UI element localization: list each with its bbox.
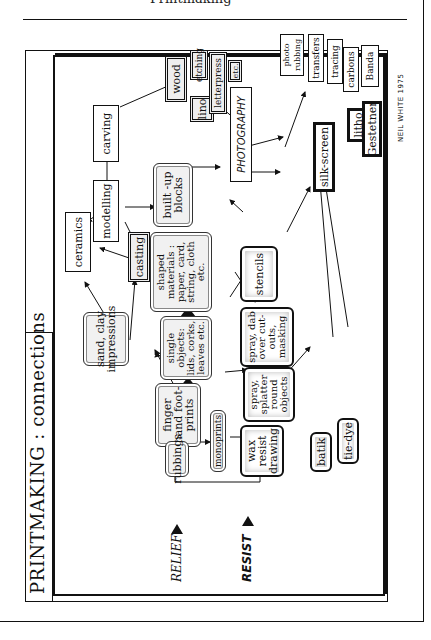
node-tie-dye: tie-dye bbox=[337, 418, 359, 464]
node-shaped-materials: shaped materials : paper, card, string, … bbox=[150, 232, 212, 312]
node-photo-rubbing: photo rubbing bbox=[280, 34, 304, 76]
node-wood: wood bbox=[165, 56, 187, 102]
resist-arrow-icon bbox=[242, 516, 254, 526]
node-monoprints: monoprints bbox=[210, 410, 226, 472]
header-rule bbox=[23, 19, 407, 20]
node-stencils: stencils bbox=[240, 246, 278, 302]
section-label-relief: RELIEF bbox=[170, 534, 184, 582]
node-banda: Banda bbox=[361, 45, 379, 87]
section-label-resist: RESIST bbox=[240, 535, 254, 582]
node-tracing: tracing bbox=[327, 39, 343, 84]
node-gestetner: Gestetner bbox=[362, 101, 382, 157]
node-carbons: carbons bbox=[343, 47, 359, 92]
node-wax-resist: wax resist drawing bbox=[240, 425, 284, 477]
node-etching: etching bbox=[190, 50, 208, 80]
node-rubbings: rubbings bbox=[165, 441, 189, 477]
relief-arrow-icon bbox=[171, 524, 183, 534]
node-sand-clay: sand, clay impressions bbox=[83, 312, 129, 366]
node-letterpress: letterpress bbox=[209, 52, 227, 114]
node-batik: batik bbox=[310, 432, 332, 472]
node-casting: casting bbox=[128, 232, 150, 282]
node-etc: etc. bbox=[228, 60, 242, 82]
node-silk-screen: silk-screen bbox=[313, 122, 335, 192]
node-transfers: transfers bbox=[308, 34, 324, 82]
node-photography: PHOTOGRAPHY bbox=[230, 87, 252, 182]
node-carving: carving bbox=[93, 105, 119, 162]
node-modelling: modelling bbox=[93, 180, 119, 242]
running-header: Printmaking bbox=[150, 0, 232, 6]
signature: NEIL WHITE 1975 bbox=[397, 74, 405, 142]
node-ceramics: ceramics bbox=[65, 212, 91, 272]
node-built-up-blocks: built -up blocks bbox=[153, 163, 193, 227]
node-spray-dab: spray, dab over cut-outs, masking bbox=[240, 307, 294, 367]
node-single-objects: single objects: lids, corks, leaves etc. bbox=[160, 316, 212, 380]
diagram-frame: PRINTMAKING : connections bbox=[25, 50, 388, 602]
node-spray-splatter: spray, splatter round objects bbox=[243, 367, 295, 422]
